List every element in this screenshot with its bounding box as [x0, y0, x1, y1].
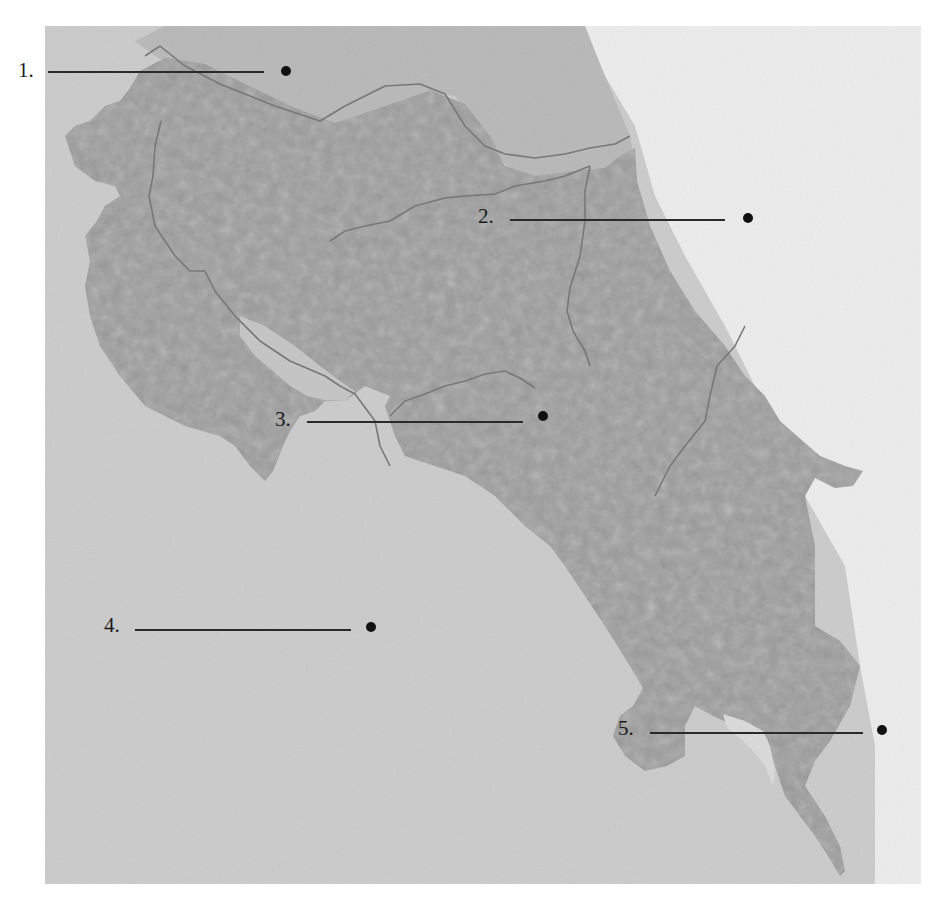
location-dot-3 — [538, 411, 548, 421]
costa-rica-map — [45, 26, 921, 884]
label-5: 5. — [618, 716, 918, 746]
answer-blank-5[interactable] — [650, 732, 863, 734]
label-number: 4. — [104, 613, 120, 637]
location-dot-4 — [366, 622, 376, 632]
map-frame — [45, 26, 921, 884]
location-dot-1 — [281, 66, 291, 76]
answer-blank-4[interactable] — [135, 629, 351, 631]
answer-blank-3[interactable] — [307, 421, 523, 423]
label-2: 2. — [478, 204, 778, 234]
answer-blank-2[interactable] — [510, 219, 725, 221]
label-1: 1. — [18, 58, 318, 88]
label-number: 5. — [618, 716, 634, 740]
answer-blank-1[interactable] — [48, 71, 264, 73]
label-4: 4. — [104, 613, 404, 643]
label-3: 3. — [275, 407, 575, 437]
location-dot-5 — [877, 725, 887, 735]
label-number: 3. — [275, 407, 291, 431]
label-number: 1. — [18, 58, 34, 82]
label-number: 2. — [478, 204, 494, 228]
location-dot-2 — [743, 213, 753, 223]
